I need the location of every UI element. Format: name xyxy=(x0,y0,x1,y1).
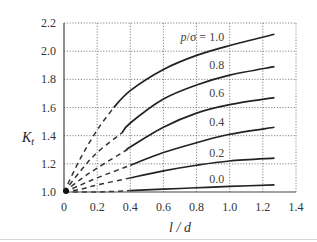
grid-lines xyxy=(64,23,296,192)
curve-label: 0.8 xyxy=(209,58,224,72)
divider xyxy=(0,239,317,240)
y-tick-label: 2.2 xyxy=(41,16,56,30)
x-tick-label: 0.8 xyxy=(189,200,204,214)
origin-dot xyxy=(63,188,69,194)
x-tick-label: 1.4 xyxy=(289,200,304,214)
curve-0.2 xyxy=(130,158,274,178)
curve-label: p/σ = 1.0 xyxy=(180,30,225,44)
chart: 1.01.21.41.61.82.02.2 00.20.40.60.81.01.… xyxy=(0,0,317,242)
x-tick-label: 1.0 xyxy=(222,200,237,214)
y-tick-label: 1.4 xyxy=(41,129,56,143)
curve-label: 0.4 xyxy=(209,115,224,129)
x-tick-label: 0.2 xyxy=(90,200,105,214)
curve-label: 0.0 xyxy=(209,172,224,186)
curve-label: 0.6 xyxy=(209,86,224,100)
x-tick-label: 1.2 xyxy=(255,200,270,214)
curve-dashed-0.8 xyxy=(64,133,122,192)
data-curves xyxy=(64,34,274,192)
y-tick-label: 1.0 xyxy=(41,185,56,199)
x-tick-label: 0 xyxy=(61,200,67,214)
y-tick-label: 1.8 xyxy=(41,72,56,86)
y-tick-labels: 1.01.21.41.61.82.02.2 xyxy=(41,16,56,199)
curve-0.0 xyxy=(130,185,274,191)
y-tick-label: 2.0 xyxy=(41,44,56,58)
x-tick-labels: 00.20.40.60.81.01.21.4 xyxy=(61,200,304,214)
curve-dashed-1.0 xyxy=(64,108,114,193)
y-axis-label: Kt xyxy=(21,130,34,147)
y-tick-label: 1.6 xyxy=(41,101,56,115)
y-tick-label: 1.2 xyxy=(41,157,56,171)
x-axis-label: l / d xyxy=(169,220,192,235)
curve-label: 0.2 xyxy=(209,146,224,160)
x-tick-label: 0.6 xyxy=(156,200,171,214)
curve-0.8 xyxy=(122,67,274,133)
x-tick-label: 0.4 xyxy=(123,200,138,214)
